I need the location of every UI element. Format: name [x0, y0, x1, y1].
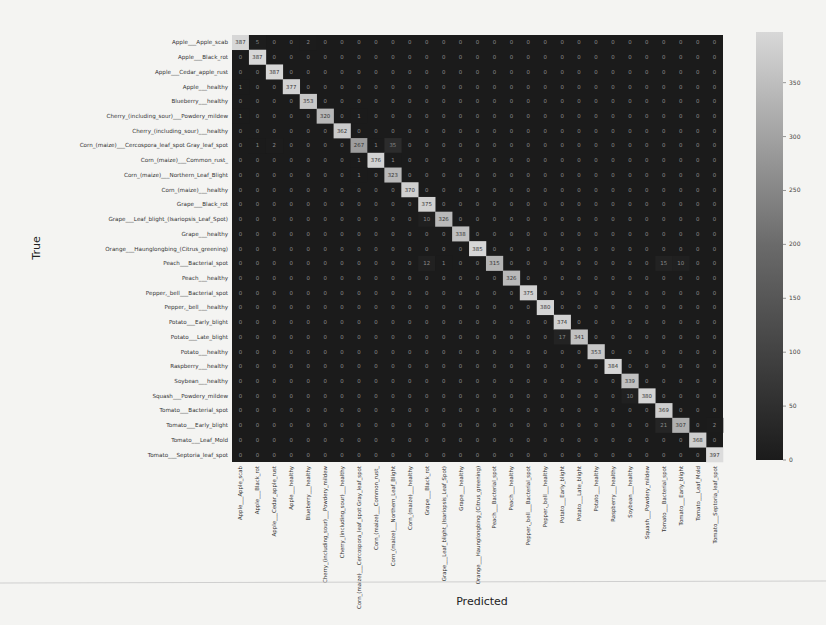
cell-value: 0: [662, 231, 666, 237]
cell-value: 0: [239, 246, 243, 252]
cell-value: 0: [357, 231, 361, 237]
cell-value: 0: [560, 157, 564, 163]
cell-value: 0: [476, 290, 480, 296]
x-tick-label: Corn_(maize)___healthy: [407, 465, 414, 530]
x-tick-label: Tomato___Leaf_Mold: [695, 466, 702, 522]
cell-value: 0: [594, 69, 598, 75]
cell-value: 0: [323, 275, 327, 281]
cell-value: 0: [239, 201, 243, 207]
cell-value: 0: [340, 304, 344, 310]
cell-value: 0: [340, 407, 344, 413]
cell-value: 0: [527, 187, 531, 193]
cell-value: 0: [374, 113, 378, 119]
cell-value: 0: [679, 142, 683, 148]
cell-value: 0: [306, 363, 310, 369]
colorbar-tick-label: 50: [789, 402, 797, 409]
cell-value: 0: [611, 187, 615, 193]
cell-value: 0: [459, 334, 463, 340]
cell-value: 0: [527, 113, 531, 119]
cell-value: 0: [628, 69, 632, 75]
cell-value: 0: [374, 231, 378, 237]
cell-value: 0: [560, 363, 564, 369]
cell-value: 0: [239, 334, 243, 340]
cell-value: 0: [459, 363, 463, 369]
cell-value: 0: [645, 422, 649, 428]
cell-value: 0: [425, 422, 429, 428]
cell-value: 0: [645, 98, 649, 104]
cell-value: 0: [425, 349, 429, 355]
cell-value: 0: [527, 452, 531, 458]
cell-value: 0: [611, 422, 615, 428]
cell-value: 0: [577, 349, 581, 355]
x-tick-label: Cherry_(including_sour)___Powdery_mildew: [322, 465, 329, 583]
cell-value: 0: [662, 84, 666, 90]
cell-value: 0: [611, 260, 615, 266]
cell-value: 0: [323, 393, 327, 399]
cell-value: 0: [594, 290, 598, 296]
cell-value: 0: [510, 128, 514, 134]
cell-value: 0: [476, 39, 480, 45]
cell-value: 0: [662, 393, 666, 399]
cell-value: 0: [323, 378, 327, 384]
cell-value: 0: [374, 422, 378, 428]
cell-value: 0: [239, 187, 243, 193]
cell-value: 0: [696, 363, 700, 369]
cell-value: 2: [306, 39, 309, 45]
cell-value: 0: [645, 275, 649, 281]
cell-value: 0: [645, 349, 649, 355]
cell-value: 0: [628, 84, 632, 90]
cell-value: 0: [662, 349, 666, 355]
x-tick-label: Tomato___Early_blight: [678, 466, 685, 526]
cell-value: 0: [374, 437, 378, 443]
cell-value: 0: [273, 172, 277, 178]
cell-value: 0: [357, 422, 361, 428]
cell-value: 0: [594, 363, 598, 369]
cell-value: 0: [442, 290, 446, 296]
cell-value: 0: [713, 349, 717, 355]
cell-value: 0: [510, 334, 514, 340]
cell-value: 0: [577, 319, 581, 325]
cell-value: 0: [425, 187, 429, 193]
cell-value: 353: [303, 98, 313, 104]
y-tick-label: Orange___Haunglongbing_(Citrus_greening): [105, 246, 228, 253]
cell-value: 0: [560, 304, 564, 310]
cell-value: 0: [645, 290, 649, 296]
colorbar: 050100150200250300350: [756, 32, 801, 463]
cell-value: 0: [391, 349, 395, 355]
cell-value: 0: [662, 54, 666, 60]
cell-value: 0: [408, 407, 412, 413]
cell-value: 0: [323, 231, 327, 237]
colorbar-tick-label: 0: [789, 456, 793, 463]
cell-value: 0: [273, 452, 277, 458]
cell-value: 2: [713, 422, 716, 428]
cell-value: 267: [354, 142, 364, 148]
cell-value: 0: [594, 334, 598, 340]
cell-value: 0: [425, 290, 429, 296]
cell-value: 385: [472, 246, 482, 252]
x-tick-label: Apple___Black_rot: [254, 466, 261, 514]
cell-value: 0: [544, 69, 548, 75]
cell-value: 0: [696, 349, 700, 355]
cell-value: 0: [323, 84, 327, 90]
cell-value: 0: [374, 128, 378, 134]
cell-value: 0: [306, 113, 310, 119]
cell-value: 0: [510, 113, 514, 119]
cell-value: 0: [323, 304, 327, 310]
cell-value: 0: [374, 393, 378, 399]
cell-value: 0: [577, 54, 581, 60]
cell-value: 0: [645, 187, 649, 193]
cell-value: 0: [493, 84, 497, 90]
cell-value: 0: [459, 54, 463, 60]
cell-value: 0: [577, 275, 581, 281]
cell-value: 0: [340, 231, 344, 237]
cell-value: 0: [628, 172, 632, 178]
cell-value: 0: [239, 157, 243, 163]
cell-value: 0: [510, 246, 514, 252]
cell-value: 0: [696, 378, 700, 384]
cell-value: 0: [527, 54, 531, 60]
x-tick-label: Grape___healthy: [458, 465, 465, 511]
cell-value: 0: [662, 275, 666, 281]
cell-value: 0: [696, 84, 700, 90]
cell-value: 0: [696, 157, 700, 163]
cell-value: 0: [256, 201, 260, 207]
